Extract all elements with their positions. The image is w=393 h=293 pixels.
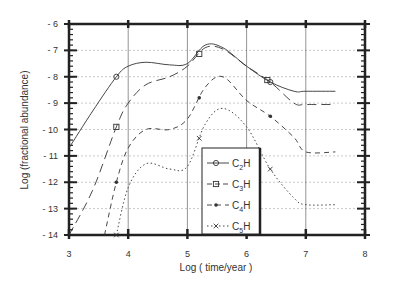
legend: C2HC3HC4HC5H	[202, 148, 260, 234]
chart: - 6- 7- 8- 9- 10- 11- 12- 13- 14 345678 …	[0, 0, 393, 293]
y-tick-label: - 12	[42, 177, 58, 187]
y-axis-label: Log (fractional abundance)	[19, 71, 30, 190]
y-tick-label: - 6	[47, 19, 58, 29]
x-tick-label: 3	[66, 249, 71, 259]
y-tick-label: - 9	[47, 98, 58, 108]
y-axis-ticks: - 6- 7- 8- 9- 10- 11- 12- 13- 14	[42, 19, 58, 240]
x-tick-label: 7	[303, 249, 308, 259]
x-tick-label: 4	[126, 249, 131, 259]
series-c2h	[69, 44, 335, 148]
x-tick-label: 6	[244, 249, 249, 259]
x-tick-label: 8	[362, 249, 367, 259]
y-tick-label: - 10	[42, 125, 58, 135]
y-tick-label: - 14	[42, 230, 58, 240]
y-tick-label: - 8	[47, 72, 58, 82]
x-tick-label: 5	[185, 249, 190, 259]
y-tick-label: - 13	[42, 204, 58, 214]
x-axis-ticks: 345678	[66, 249, 367, 259]
y-tick-label: - 11	[43, 151, 58, 161]
x-axis-label: Log ( time/year )	[180, 262, 253, 273]
y-tick-label: - 7	[47, 45, 58, 55]
